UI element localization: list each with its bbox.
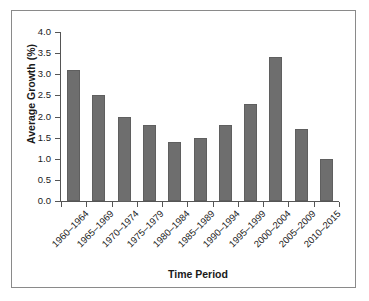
bar xyxy=(168,142,181,201)
x-axis-line xyxy=(60,201,339,202)
x-axis-tick xyxy=(263,202,264,207)
x-axis-tick xyxy=(238,202,239,207)
y-axis-tick-label: 3.0 xyxy=(11,68,51,79)
x-axis-tick xyxy=(187,202,188,207)
chart-figure: Average Growth (%) Time Period 0.00.51.0… xyxy=(0,0,369,301)
bar xyxy=(219,125,232,201)
y-axis-tick xyxy=(55,180,60,181)
x-axis-tick xyxy=(162,202,163,207)
x-axis-title: Time Period xyxy=(48,268,348,280)
y-axis-tick xyxy=(55,74,60,75)
bar xyxy=(295,129,308,201)
y-axis-tick xyxy=(55,159,60,160)
bar xyxy=(92,95,105,201)
bar xyxy=(269,57,282,201)
y-axis-tick-label: 3.5 xyxy=(11,47,51,58)
y-axis-tick-label: 2.5 xyxy=(11,89,51,100)
x-axis-tick xyxy=(213,202,214,207)
y-axis-tick-label: 4.0 xyxy=(11,26,51,37)
x-axis-tick xyxy=(61,202,62,207)
x-axis-tick xyxy=(112,202,113,207)
x-axis-tick xyxy=(86,202,87,207)
y-axis-tick xyxy=(55,53,60,54)
y-axis-tick-label: 1.0 xyxy=(11,153,51,164)
y-axis-tick xyxy=(55,32,60,33)
y-axis-tick xyxy=(55,95,60,96)
bar xyxy=(67,70,80,201)
bar xyxy=(320,159,333,201)
y-axis-tick xyxy=(55,138,60,139)
bar xyxy=(118,117,131,202)
x-axis-tick xyxy=(288,202,289,207)
y-axis-tick-label: 1.5 xyxy=(11,132,51,143)
x-axis-tick xyxy=(137,202,138,207)
y-axis-tick xyxy=(55,117,60,118)
x-axis-tick xyxy=(339,202,340,207)
x-axis-tick xyxy=(314,202,315,207)
bar xyxy=(244,104,257,201)
y-axis-tick xyxy=(55,201,60,202)
y-axis-tick-label: 0.5 xyxy=(11,174,51,185)
y-axis-tick-label: 2.0 xyxy=(11,111,51,122)
bar xyxy=(194,138,207,201)
bar xyxy=(143,125,156,201)
y-axis-tick-label: 0.0 xyxy=(11,195,51,206)
